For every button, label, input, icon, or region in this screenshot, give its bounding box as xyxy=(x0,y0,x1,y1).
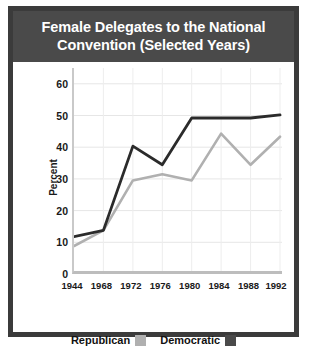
y-tick-60: 60 xyxy=(42,78,68,90)
plot-area xyxy=(72,68,282,274)
y-tick-10: 10 xyxy=(42,236,68,248)
x-tick-1980: 1980 xyxy=(179,280,200,291)
x-tick-1988: 1988 xyxy=(238,280,259,291)
chart-legend: Republican Democratic xyxy=(13,334,294,346)
x-tick-1992: 1992 xyxy=(265,280,286,291)
chart-svg xyxy=(74,68,282,271)
y-tick-40: 40 xyxy=(42,141,68,153)
chart-body: Percent 0 10 20 30 40 50 60 xyxy=(13,62,294,332)
y-tick-0: 0 xyxy=(42,268,68,280)
legend-label-democratic: Democratic xyxy=(160,334,220,346)
legend-label-republican: Republican xyxy=(71,334,130,346)
series-democratic xyxy=(74,115,280,237)
y-axis-ticks: 0 10 20 30 40 50 60 xyxy=(36,68,68,274)
plot-wrapper: Percent 0 10 20 30 40 50 60 xyxy=(22,68,285,316)
gridlines-vertical xyxy=(103,68,280,271)
legend-item-democratic: Democratic xyxy=(160,334,236,346)
y-tick-30: 30 xyxy=(42,173,68,185)
x-tick-1944: 1944 xyxy=(61,280,82,291)
legend-swatch-republican xyxy=(135,335,146,346)
y-tick-50: 50 xyxy=(42,110,68,122)
legend-swatch-democratic xyxy=(225,335,236,346)
y-tick-20: 20 xyxy=(42,205,68,217)
x-tick-1972: 1972 xyxy=(120,280,141,291)
legend-item-republican: Republican xyxy=(71,334,146,346)
chart-figure: Female Delegates to the National Convent… xyxy=(8,6,299,337)
x-tick-1968: 1968 xyxy=(91,280,112,291)
page-title: Female Delegates to the National Convent… xyxy=(13,11,294,62)
x-tick-1984: 1984 xyxy=(209,280,230,291)
x-tick-1976: 1976 xyxy=(150,280,171,291)
